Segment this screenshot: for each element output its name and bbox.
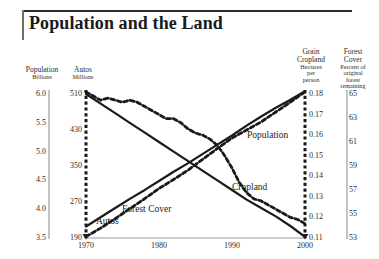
- series-label-forest-cover: Forest Cover: [122, 204, 172, 214]
- x-tick-label: 1970: [66, 241, 106, 250]
- series-label-cropland: Cropland: [232, 182, 268, 192]
- figure: Population and the Land Population Billi…: [0, 0, 379, 259]
- series-label-population: Population: [247, 130, 288, 140]
- series-label-autos: Autos: [96, 216, 119, 226]
- x-tick-label: 2000: [285, 241, 325, 250]
- x-tick-label: 1990: [212, 241, 252, 250]
- x-tick-label: 1980: [139, 241, 179, 250]
- plot-area: PopulationAutosCroplandForest Cover: [0, 0, 379, 259]
